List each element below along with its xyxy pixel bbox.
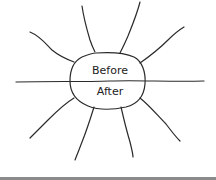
ray-top-right: [120, 2, 140, 53]
ray-lower-right: [140, 98, 180, 141]
label-after: After: [80, 85, 140, 98]
footer-bar: [0, 177, 216, 180]
ray-top-left: [82, 6, 95, 52]
ray-bottom-right: [121, 107, 133, 157]
ray-upper-left: [30, 32, 74, 62]
ray-upper-right: [140, 27, 184, 63]
divider-line: [16, 81, 204, 82]
ray-bottom-left: [75, 107, 94, 160]
ray-lower-left: [30, 98, 74, 138]
label-before: Before: [80, 64, 140, 77]
